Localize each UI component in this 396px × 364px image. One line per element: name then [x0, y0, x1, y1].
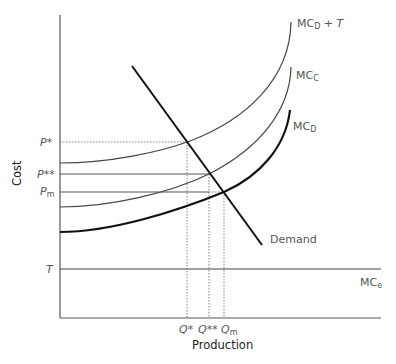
- mc-d-plus-t-suffix: + T: [320, 17, 343, 30]
- mc-d-label: MCD: [293, 121, 316, 134]
- mc-d-plus-t-base: MC: [297, 17, 314, 30]
- p-m-sub: m: [47, 190, 55, 199]
- mc-e-label: MCe: [360, 277, 382, 290]
- y-axis-title: Cost: [12, 160, 24, 186]
- diagram-canvas: [0, 0, 396, 364]
- q-m-label: Qm: [221, 324, 237, 337]
- mc-c-sub: C: [313, 74, 319, 83]
- mc-c-curve: [60, 67, 291, 207]
- p-star-label: P*: [40, 137, 52, 148]
- mc-d-curve: [60, 110, 290, 232]
- mc-d-base: MC: [293, 120, 310, 133]
- mc-e-base: MC: [360, 276, 377, 289]
- mc-d-sub: D: [310, 125, 316, 134]
- q-double-star-label: Q**: [198, 324, 218, 335]
- mc-e-sub: e: [377, 281, 382, 290]
- mc-c-base: MC: [296, 69, 313, 82]
- q-m-sub: m: [230, 328, 238, 337]
- mc-c-label: MCC: [296, 70, 319, 83]
- q-m-base: Q: [221, 323, 230, 336]
- x-axis-title: Production: [192, 340, 253, 352]
- demand-label: Demand: [270, 234, 317, 245]
- p-double-star-label: P**: [37, 169, 55, 180]
- q-star-label: Q*: [179, 324, 193, 335]
- p-m-base: P: [40, 185, 47, 198]
- t-label: T: [46, 264, 53, 275]
- p-m-label: Pm: [40, 186, 54, 199]
- mc-d-plus-t-label: MCD + T: [297, 18, 343, 31]
